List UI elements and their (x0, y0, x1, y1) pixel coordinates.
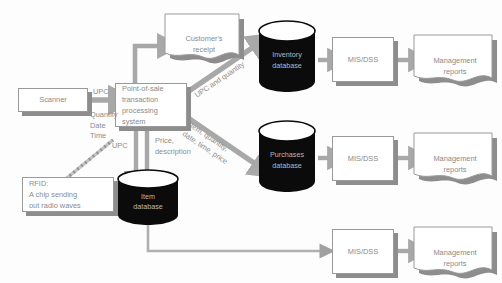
diagram-canvas: Scanner RFID: A chip sending out radio w… (0, 0, 502, 283)
node-mis-dss-top-label: MIS/DSS (345, 54, 381, 65)
node-scanner[interactable]: Scanner (18, 88, 88, 112)
node-mis-dss-top[interactable]: MIS/DSS (332, 37, 394, 82)
node-management-reports-bottom[interactable]: Management reports (411, 224, 499, 280)
arrow-pos-to-receipt (135, 46, 158, 88)
node-management-reports-top[interactable]: Management reports (411, 32, 499, 88)
node-mis-dss-middle[interactable]: MIS/DSS (332, 136, 394, 181)
edge-label-scanner-upc: UPC (93, 87, 109, 98)
node-management-reports-bottom-label: Management reports (433, 247, 476, 270)
arrow-rfid-to-pos (62, 140, 113, 182)
edge-label-scanner-details: Quantity Date Time (90, 110, 118, 142)
node-mis-dss-middle-label: MIS/DSS (345, 153, 381, 164)
node-inventory-database-label: Inventory database (272, 50, 302, 72)
node-purchases-database-label: Purchases database (270, 150, 304, 172)
node-mis-dss-bottom[interactable]: MIS/DSS (332, 229, 394, 274)
node-mis-dss-bottom-label: MIS/DSS (345, 246, 381, 257)
arrow-item-db-to-mis-bottom (148, 224, 320, 251)
node-inventory-database[interactable]: Inventory database (256, 18, 318, 94)
node-customer-receipt[interactable]: Customer's receipt (162, 11, 246, 64)
node-rfid-label: RFID: A chip sending out radio waves (23, 178, 84, 211)
node-purchases-database[interactable]: Purchases database (256, 118, 318, 194)
node-item-database-label: Item database (133, 192, 163, 214)
node-pos-system[interactable]: Point-of-sale transaction processing sys… (115, 83, 187, 127)
node-item-database[interactable]: Item database (114, 168, 182, 226)
node-customer-receipt-label: Customer's receipt (185, 33, 222, 56)
node-management-reports-middle[interactable]: Management reports (411, 130, 499, 186)
node-management-reports-top-label: Management reports (433, 55, 476, 78)
edge-label-pos-to-item-upc: UPC (112, 141, 128, 152)
node-management-reports-middle-label: Management reports (433, 153, 476, 176)
node-rfid[interactable]: RFID: A chip sending out radio waves (22, 177, 114, 212)
node-scanner-label: Scanner (36, 94, 70, 105)
node-pos-system-label: Point-of-sale transaction processing sys… (116, 83, 167, 127)
